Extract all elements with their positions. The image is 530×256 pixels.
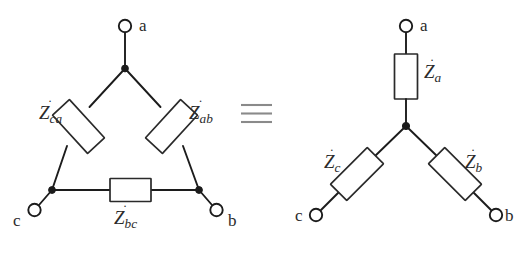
delta-impedance-label-zca: Z˙ca — [39, 103, 62, 125]
delta-impedance-zbc-subscript: bc — [125, 216, 138, 231]
delta-impedance-zbc-dot: ˙ — [123, 204, 128, 218]
impedance-network-figure: a c b Z˙ca Z˙ab Z˙bc a c b Z˙a Z˙c Z˙b — [0, 0, 530, 256]
delta-impedance-label-zbc: Z˙bc — [114, 208, 137, 230]
delta-wire-ca-upper — [90, 69, 126, 108]
star-impedance-label-zc: Z˙c — [324, 152, 341, 174]
delta-terminal-c-circle — [28, 204, 40, 216]
delta-impedance-zab-dot: ˙ — [198, 99, 203, 113]
delta-terminal-b-circle — [210, 204, 222, 216]
delta-terminal-label-c: c — [13, 212, 21, 229]
delta-terminal-a-circle — [119, 20, 131, 32]
star-terminal-a-circle — [400, 20, 412, 32]
star-impedance-za-subscript: a — [435, 70, 442, 85]
star-terminal-label-a: a — [420, 17, 428, 34]
delta-impedance-zca-dot: ˙ — [48, 99, 53, 113]
star-impedance-zb-dot: ˙ — [471, 148, 476, 162]
star-wire-c-lower — [321, 191, 340, 210]
star-impedance-zc-dot: ˙ — [329, 148, 334, 162]
star-wire-c-upper — [374, 126, 406, 157]
delta-terminal-label-b: b — [228, 212, 237, 229]
star-impedance-zc-subscript: c — [335, 160, 341, 175]
delta-wire-ab-upper — [125, 69, 161, 108]
delta-impedance-zab-subscript: ab — [200, 111, 214, 126]
equivalence-symbol-icon — [241, 105, 272, 122]
star-wire-b-lower — [472, 191, 491, 210]
star-terminal-b-circle — [490, 209, 502, 221]
star-terminal-c-circle — [310, 209, 322, 221]
delta-wire-ab-lower — [183, 146, 199, 190]
network-diagram-svg — [0, 0, 530, 256]
delta-impedance-label-zab: Z˙ab — [189, 103, 213, 125]
star-impedance-label-zb: Z˙b — [465, 152, 482, 174]
star-impedance-label-za: Z˙a — [424, 62, 441, 84]
star-impedance-box-za — [395, 54, 418, 99]
delta-impedance-box-zbc — [110, 179, 151, 202]
star-wire-b-upper — [406, 126, 438, 157]
delta-impedance-zca-subscript: ca — [50, 111, 63, 126]
star-impedance-zb-subscript: b — [476, 160, 483, 175]
star-network — [310, 20, 502, 221]
delta-wire-ca-lower — [52, 146, 67, 190]
delta-terminal-label-a: a — [139, 17, 147, 34]
delta-lead-c — [39, 190, 52, 205]
star-terminal-label-b: b — [505, 207, 514, 224]
delta-lead-b — [199, 190, 212, 205]
star-impedance-za-dot: ˙ — [430, 58, 435, 72]
star-terminal-label-c: c — [295, 207, 303, 224]
